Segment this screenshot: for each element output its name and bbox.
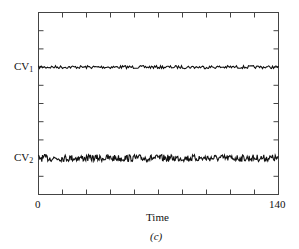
x-max-tick-label: 140: [269, 199, 286, 210]
cv1-series-line: [39, 66, 279, 69]
cv1-label-main: CV: [14, 60, 29, 72]
cv1-label-sub: 1: [29, 65, 33, 74]
x-axis-ticks: [63, 13, 255, 195]
plot-frame: [39, 13, 279, 195]
panel-label: (c): [150, 231, 162, 242]
cv2-label-main: CV: [14, 151, 29, 163]
x-axis-title: Time: [146, 212, 169, 223]
cv1-label: CV1: [14, 61, 33, 74]
cv2-label: CV2: [14, 152, 33, 165]
cv2-series-line: [39, 155, 279, 162]
x-min-tick-label: 0: [35, 199, 41, 210]
cv2-label-sub: 2: [29, 156, 33, 165]
